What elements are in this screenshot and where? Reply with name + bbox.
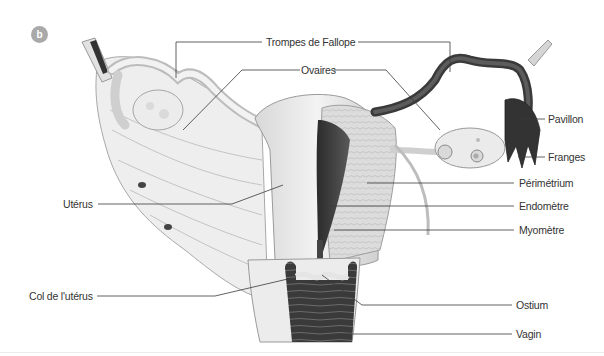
panel-badge: b <box>31 26 48 43</box>
left-ovary <box>133 90 183 130</box>
label-franges: Franges <box>548 151 585 163</box>
cervix-vagina <box>248 258 360 342</box>
anatomy-diagram: b Trompes de Fallope Ovaires Pavillon Fr… <box>0 0 604 356</box>
illustration <box>0 0 604 356</box>
label-uterus: Utérus <box>63 198 93 210</box>
right-ovary <box>435 128 505 168</box>
label-vagin: Vagin <box>516 328 541 340</box>
label-col: Col de l'utérus <box>29 290 93 302</box>
label-perimetrium: Périmétrium <box>519 177 573 189</box>
label-myometre: Myomètre <box>519 224 564 236</box>
broad-ligament <box>96 57 268 300</box>
label-ostium: Ostium <box>516 299 548 311</box>
bottom-divider <box>0 352 604 353</box>
label-trompes: Trompes de Fallope <box>266 36 355 48</box>
label-endometre: Endomètre <box>519 200 569 212</box>
label-pavillon: Pavillon <box>548 113 583 125</box>
label-ovaires: Ovaires <box>301 64 336 76</box>
